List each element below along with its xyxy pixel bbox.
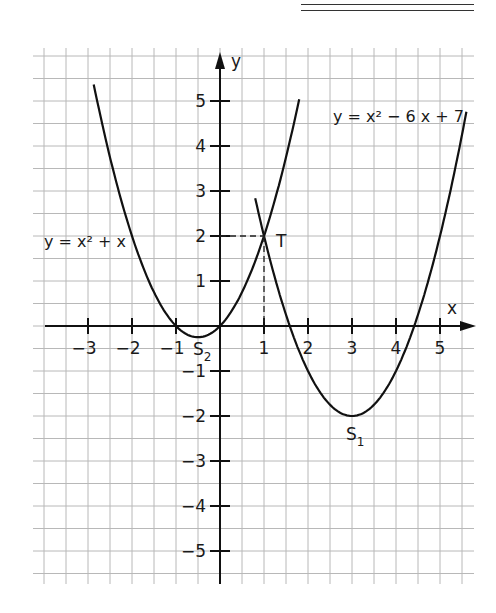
- x-axis-label: x: [447, 298, 457, 318]
- parabola-chart: −3−2−112345−5−4−3−2−112345 y x y = x² + …: [0, 0, 496, 613]
- grid: [33, 48, 474, 584]
- y-tick-label: 1: [195, 271, 206, 291]
- x-tick-label: −3: [71, 338, 96, 358]
- y-tick-label: −3: [181, 451, 206, 471]
- y-tick-label: 5: [195, 91, 206, 111]
- equation-label-1: y = x² + x: [44, 232, 126, 251]
- y-axis-label: y: [231, 51, 241, 71]
- x-tick-label: 1: [259, 338, 270, 358]
- y-tick-label: −4: [181, 496, 206, 516]
- y-tick-label: −1: [181, 361, 206, 381]
- x-tick-label: 3: [347, 338, 358, 358]
- y-tick-label: −5: [181, 541, 206, 561]
- y-tick-label: −2: [181, 406, 206, 426]
- vertex-label-s1: S1: [346, 424, 364, 449]
- x-tick-label: −2: [115, 338, 140, 358]
- y-tick-label: 3: [195, 181, 206, 201]
- y-axis-arrow-icon: [215, 52, 225, 69]
- x-tick-label: −1: [159, 338, 184, 358]
- intersection-label-t: T: [275, 231, 287, 251]
- parabola-curve-1: [94, 85, 300, 338]
- equation-label-2: y = x² − 6 x + 7: [333, 107, 464, 126]
- x-tick-label: 4: [391, 338, 402, 358]
- x-tick-label: 5: [435, 338, 446, 358]
- y-tick-label: 2: [195, 226, 206, 246]
- x-axis-arrow-icon: [460, 321, 476, 331]
- x-tick-label: 2: [303, 338, 314, 358]
- y-tick-label: 4: [195, 136, 206, 156]
